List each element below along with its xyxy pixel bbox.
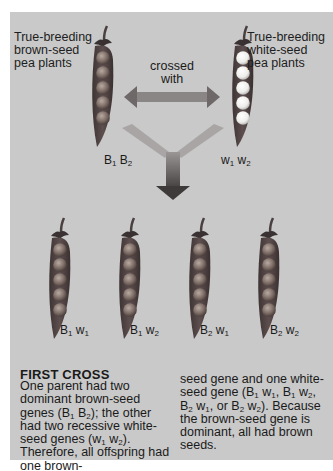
brown-seed	[193, 273, 207, 287]
brown-seed	[193, 258, 207, 272]
brown-seed	[123, 303, 137, 317]
brown-seed	[53, 273, 67, 287]
brown-seed	[96, 111, 110, 125]
allele: w2	[142, 323, 158, 337]
white-seed	[236, 96, 250, 110]
brown-seed	[262, 273, 276, 287]
allele: w1	[221, 153, 234, 167]
right-parent-label: True-breeding white-seed pea plants	[247, 31, 325, 70]
brown-seed	[96, 96, 110, 110]
brown-seed	[262, 258, 276, 272]
brown-seed	[123, 288, 137, 302]
brown-seed	[262, 243, 276, 257]
white-seed	[236, 81, 250, 95]
allele: B2	[200, 323, 212, 337]
brown-seed	[123, 243, 137, 257]
offspring-genotype: B1 w2	[130, 323, 159, 338]
offspring-pea-pod	[258, 218, 279, 339]
pod-stem	[201, 218, 204, 232]
offspring-pea-pod	[189, 218, 210, 339]
brown-seed	[53, 288, 67, 302]
brown-seed	[96, 66, 110, 80]
left-parent-genotype: B1 B2	[104, 153, 132, 168]
allele: B1	[104, 153, 116, 167]
allele: w2	[282, 323, 298, 337]
brown-seed	[262, 303, 276, 317]
pod-stem	[61, 218, 64, 232]
brown-seed	[96, 51, 110, 65]
arrow-left-head	[124, 86, 137, 108]
offspring-genotype: B1 w1	[60, 323, 89, 338]
white-seed	[236, 111, 250, 125]
offspring-genotype: B2 w1	[200, 323, 229, 338]
merge-arrow	[122, 124, 224, 200]
allele: w1	[212, 323, 228, 337]
brown-seed	[123, 273, 137, 287]
allele: B1	[130, 323, 142, 337]
crossed-with-label: crossed with	[142, 60, 202, 86]
merge-arrow-head	[156, 186, 190, 200]
brown-seed	[53, 243, 67, 257]
merge-arrow-right-branch	[177, 124, 224, 158]
caption-column-2: seed gene and one white-seed gene (B1 w1…	[180, 373, 330, 453]
brown-seed	[262, 288, 276, 302]
arrow-shaft	[137, 92, 207, 102]
allele: B2	[270, 323, 282, 337]
right-parent-label-line: pea plants	[247, 57, 325, 70]
crossed-label-line: with	[142, 73, 202, 86]
offspring-genotype: B2 w2	[270, 323, 299, 338]
merge-arrow-stem	[166, 152, 180, 186]
brown-seed	[193, 288, 207, 302]
left-parent-label-line: pea plants	[14, 57, 92, 70]
brown-seed	[193, 303, 207, 317]
brown-seed	[53, 258, 67, 272]
allele: B2	[116, 153, 132, 167]
right-parent-genotype: w1 w2	[221, 153, 251, 168]
pod-stem	[270, 218, 273, 232]
allele: B1	[60, 323, 72, 337]
pod-stem	[104, 26, 107, 40]
brown-seed-pea-pod	[92, 26, 113, 147]
offspring-pea-pod	[119, 218, 140, 339]
allele: w2	[234, 153, 250, 167]
brown-seed	[123, 258, 137, 272]
offspring-pea-pod	[49, 218, 70, 339]
arrow-right-head	[207, 86, 220, 108]
brown-seed	[53, 303, 67, 317]
allele: w1	[72, 323, 88, 337]
pod-stem	[131, 218, 134, 232]
caption-column-1: One parent had two dominant brown-seed g…	[20, 380, 170, 471]
brown-seed	[96, 81, 110, 95]
left-parent-label: True-breeding brown-seed pea plants	[14, 31, 92, 70]
brown-seed	[193, 243, 207, 257]
crossed-arrow	[124, 86, 220, 108]
